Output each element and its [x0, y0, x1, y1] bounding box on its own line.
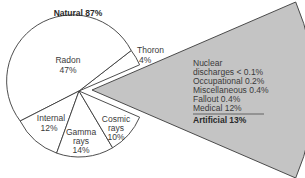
radon-label: Radon: [55, 55, 80, 65]
artificial-total-label: Artificial 13%: [193, 115, 247, 125]
thoron-value: 4%: [139, 55, 152, 65]
internal-label: Internal: [37, 113, 65, 123]
gamma-value: 14%: [72, 145, 89, 155]
pie-chart: Natural 87% Radon 47% Thoron 4% Internal…: [0, 0, 305, 178]
thoron-label: Thoron: [137, 45, 164, 55]
medical-label: Medical 12%: [193, 103, 242, 113]
natural-total-label: Natural 87%: [54, 8, 103, 18]
radon-value: 47%: [59, 65, 76, 75]
internal-value: 12%: [40, 123, 57, 133]
cosmic-value: 10%: [107, 132, 124, 142]
